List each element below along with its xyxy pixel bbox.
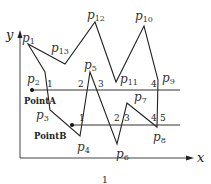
intersection-index: 1 [47,79,53,89]
vertex-label-p5: p5 [84,58,97,73]
vertex-label-p7: p7 [134,90,147,105]
vertex-label-p12: p12 [87,8,105,23]
y-axis-label: y [5,27,14,42]
scan-start-point-icon [30,88,34,92]
polygon-scanline-diagram: y x PointA1234PointB12345 p1p2p3p4p5p6p7… [0,0,211,184]
intersection-index: 4 [151,113,157,123]
vertex-label-p8: p8 [153,130,166,145]
x-axis-arrow-icon [186,156,194,161]
intersection-index: 2 [78,79,84,89]
scan-line-label: PointA [24,96,56,106]
vertex-label-p9: p9 [162,71,175,86]
vertex-label-p10: p10 [135,9,153,24]
intersection-index: 4 [151,79,157,89]
intersection-index: 3 [124,113,130,123]
intersection-index: 5 [160,113,166,123]
diagram-canvas: y x PointA1234PointB12345 p1p2p3p4p5p6p7… [0,0,211,184]
figure-caption: 1 [102,174,108,184]
intersection-index: 3 [98,79,104,89]
x-axis-label: x [197,150,205,165]
vertex-label-p13: p13 [51,41,69,56]
vertex-label-p4: p4 [77,140,90,155]
vertex-label-p1: p1 [22,31,35,46]
vertex-label-p3: p3 [36,108,49,123]
vertex-label-p6: p6 [116,147,129,162]
intersection-index: 2 [114,113,120,123]
vertex-label-p2: p2 [27,72,40,87]
scan-start-point-icon [70,123,74,127]
intersection-index: 1 [79,113,85,123]
scan-line-label: PointB [34,131,66,141]
vertex-label-p11: p11 [120,72,138,87]
